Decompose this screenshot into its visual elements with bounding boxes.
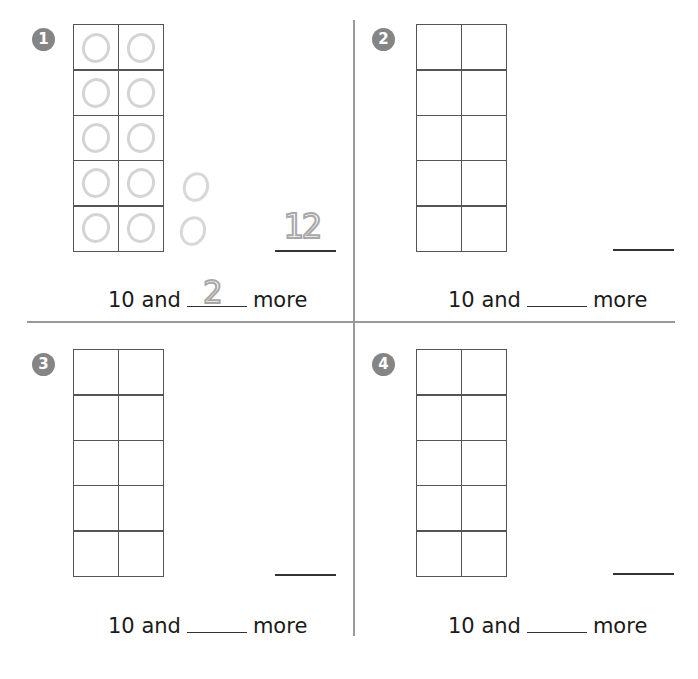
sentence-prefix: 10 and <box>108 614 181 638</box>
ten-frame-cell[interactable] <box>461 24 507 71</box>
ten-frame-cell[interactable] <box>461 530 507 577</box>
ten-frame-cell[interactable] <box>416 440 462 487</box>
ten-frame-cell[interactable] <box>461 394 507 441</box>
ten-frame <box>73 349 164 577</box>
sentence-prefix: 10 and <box>448 614 521 638</box>
more-answer-blank[interactable] <box>187 618 247 633</box>
sentence-suffix: more <box>593 288 647 312</box>
sentence: 10 andmore <box>108 614 307 638</box>
ten-frame-cell[interactable] <box>73 349 119 396</box>
ten-frame-cell[interactable] <box>416 69 462 116</box>
ten-frame-cell[interactable] <box>73 440 119 487</box>
sentence: 10 andmore <box>448 614 647 638</box>
ten-frame-cell[interactable] <box>416 394 462 441</box>
ten-frame-cell[interactable] <box>416 115 462 162</box>
ten-frame-cell[interactable] <box>118 530 164 577</box>
horizontal-divider <box>27 321 675 323</box>
ten-frame <box>416 24 507 252</box>
ten-frame-cell[interactable] <box>461 440 507 487</box>
sentence-suffix: more <box>593 614 647 638</box>
ten-frame-cell[interactable] <box>461 115 507 162</box>
ten-frame-cell[interactable] <box>118 485 164 532</box>
total-answer-line[interactable] <box>613 249 674 251</box>
ten-frame-cell[interactable] <box>416 530 462 577</box>
ten-frame-cell[interactable] <box>461 349 507 396</box>
vertical-divider <box>353 20 355 636</box>
ten-frame-cell[interactable] <box>461 69 507 116</box>
ten-frame-cell[interactable] <box>73 394 119 441</box>
ten-frame <box>416 349 507 577</box>
problem-number-badge: 4 <box>372 353 395 376</box>
sentence-prefix: 10 and <box>448 288 521 312</box>
ten-frame-cell[interactable] <box>73 485 119 532</box>
ten-frame-cell[interactable] <box>73 530 119 577</box>
sentence-suffix: more <box>253 614 307 638</box>
ten-frame-cell[interactable] <box>416 205 462 252</box>
sentence: 10 andmore <box>448 288 647 312</box>
ten-frame-cell[interactable] <box>416 160 462 207</box>
problem-4: 4 10 andmore <box>0 0 340 310</box>
ten-frame-cell[interactable] <box>461 205 507 252</box>
total-answer-line[interactable] <box>275 574 336 576</box>
ten-frame-cell[interactable] <box>416 349 462 396</box>
more-answer-blank[interactable] <box>527 292 587 307</box>
problem-number-badge: 2 <box>372 28 395 51</box>
ten-frame-cell[interactable] <box>118 394 164 441</box>
ten-frame-cell[interactable] <box>118 440 164 487</box>
total-answer-line[interactable] <box>613 573 674 575</box>
ten-frame-cell[interactable] <box>416 24 462 71</box>
more-answer-blank[interactable] <box>527 618 587 633</box>
problem-number-badge: 3 <box>32 353 55 376</box>
ten-frame-cell[interactable] <box>416 485 462 532</box>
ten-frame-cell[interactable] <box>118 349 164 396</box>
ten-frame-cell[interactable] <box>461 485 507 532</box>
ten-frame-cell[interactable] <box>461 160 507 207</box>
